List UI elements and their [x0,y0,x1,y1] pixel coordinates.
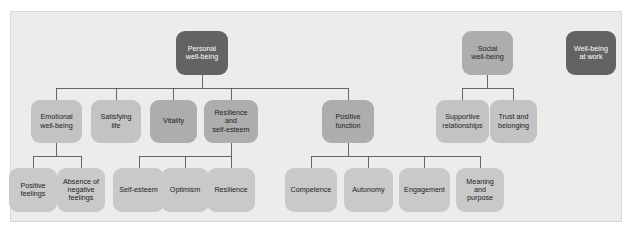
node-resilience[interactable]: Resilience [207,168,255,212]
node-trust-and-belonging[interactable]: Trust andbelonging [490,100,537,143]
node-satisfying-life[interactable]: Satisfyinglife [91,100,141,143]
node-label: Self-esteem [116,186,161,194]
node-autonomy[interactable]: Autonomy [344,168,393,212]
node-vitality[interactable]: Vitality [150,100,197,143]
node-label: Socialwell-being [465,45,510,61]
node-engagement[interactable]: Engagement [399,168,450,212]
node-label: Positivefeelings [12,182,54,198]
node-label: Emotionalwell-being [34,113,79,129]
node-label: Supportiverelationships [439,113,486,129]
node-label: Trust andbelonging [493,113,534,129]
node-social-well-being[interactable]: Socialwell-being [462,31,513,75]
node-resilience-and-self-esteem[interactable]: Resilienceandself-esteem [204,100,258,143]
node-positive-feelings[interactable]: Positivefeelings [9,168,57,212]
node-label: Absence ofnegativefeelings [60,178,102,202]
node-label: Positivefunction [325,113,371,129]
node-optimism[interactable]: Optimism [161,168,209,212]
node-label: Satisfyinglife [94,113,138,129]
node-personal-well-being[interactable]: Personalwell-being [176,31,228,75]
node-emotional-well-being[interactable]: Emotionalwell-being [31,100,82,143]
node-positive-function[interactable]: Positivefunction [322,100,374,143]
node-label: Resilience [210,186,252,194]
node-label: Engagement [402,186,447,194]
node-label: Resilienceandself-esteem [207,109,255,133]
node-label: Autonomy [347,186,390,194]
node-competence[interactable]: Competence [285,168,337,212]
node-well-being-at-work[interactable]: Well-beingat work [566,31,616,75]
node-label: Optimism [164,186,206,194]
node-supportive-relationships[interactable]: Supportiverelationships [436,100,489,143]
node-meaning-and-purpose[interactable]: Meaningandpurpose [456,168,504,212]
diagram-canvas: Personalwell-being Socialwell-being Well… [0,0,634,233]
node-label: Personalwell-being [179,45,225,61]
node-label: Meaningandpurpose [459,178,501,202]
node-self-esteem[interactable]: Self-esteem [113,168,164,212]
node-label: Competence [288,186,334,194]
node-absence-of-negative-feelings[interactable]: Absence ofnegativefeelings [57,168,105,212]
node-label: Well-beingat work [569,45,613,61]
node-label: Vitality [153,117,194,125]
